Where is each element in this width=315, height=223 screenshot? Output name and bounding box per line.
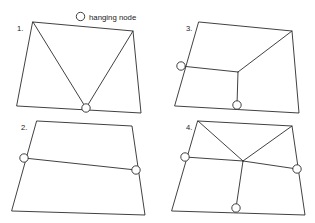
panel-1-number-label: 1. <box>17 24 23 33</box>
hanging-node-right-icon <box>132 166 140 174</box>
hanging-node-right-icon <box>293 165 301 173</box>
hanging-node-left-icon <box>181 153 189 161</box>
hanging-node-left-icon <box>177 62 185 70</box>
panel-1: 1. <box>17 22 141 113</box>
panel-4-number-label: 4. <box>186 123 192 132</box>
hanging-node-left-icon <box>20 154 28 162</box>
hanging-node-bottom-icon <box>232 204 240 212</box>
hanging-node-legend-icon <box>76 12 84 20</box>
panel-2-number-label: 2. <box>21 123 27 132</box>
hanging-node-figure: hanging node 1.2.3.4. <box>0 0 315 223</box>
legend-label: hanging node <box>89 13 136 22</box>
figure-canvas: hanging node 1.2.3.4. <box>0 0 315 223</box>
hanging-node-bottom-icon <box>82 104 90 112</box>
cell-face <box>17 22 141 113</box>
panel-3-number-label: 3. <box>186 24 192 33</box>
hanging-node-bottom-icon <box>233 101 241 109</box>
